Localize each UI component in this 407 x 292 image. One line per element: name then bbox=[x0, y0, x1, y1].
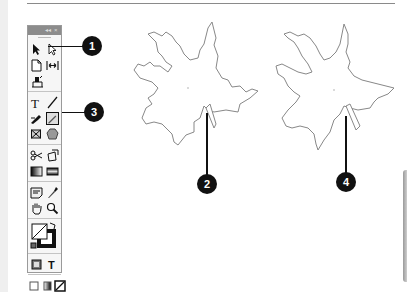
page-margin-strip bbox=[0, 0, 8, 292]
color-swatch-icon bbox=[28, 279, 41, 292]
free-transform-icon bbox=[46, 149, 59, 162]
formatting-affects-text-button[interactable]: T bbox=[46, 258, 59, 271]
tools-panel-titlebar[interactable]: ◂◂ × bbox=[28, 26, 61, 35]
gradient-swatch-icon bbox=[30, 165, 43, 178]
panel-grip[interactable] bbox=[28, 35, 61, 41]
eyedropper-tool[interactable] bbox=[46, 186, 59, 199]
note-tool[interactable] bbox=[30, 186, 43, 199]
apply-gradient-button[interactable] bbox=[41, 279, 54, 292]
maple-leaf-path-2 bbox=[270, 22, 402, 157]
page-icon bbox=[30, 59, 43, 72]
separator bbox=[28, 274, 61, 275]
selection-tool[interactable] bbox=[30, 43, 43, 56]
direct-selection-tool[interactable] bbox=[46, 43, 59, 56]
free-transform-tool[interactable] bbox=[46, 149, 59, 162]
svg-text:T: T bbox=[48, 259, 55, 271]
zoom-tool[interactable] bbox=[46, 202, 59, 215]
separator bbox=[28, 181, 61, 182]
content-collector-tool[interactable] bbox=[31, 75, 44, 88]
fill-stroke-icon bbox=[28, 221, 61, 251]
hand-tool[interactable] bbox=[30, 202, 43, 215]
page-edge-tab bbox=[403, 170, 407, 282]
separator bbox=[28, 91, 61, 92]
white-arrow-icon bbox=[46, 43, 59, 56]
apply-none-button[interactable] bbox=[54, 279, 67, 292]
apply-color-button[interactable] bbox=[28, 279, 41, 292]
gradient-feather-icon bbox=[46, 165, 59, 178]
callout-2-leader bbox=[206, 113, 208, 175]
content-collector-icon bbox=[31, 75, 44, 88]
magnifier-icon bbox=[46, 202, 59, 215]
line-icon bbox=[46, 96, 59, 109]
top-rule bbox=[27, 3, 395, 4]
type-tool[interactable]: T bbox=[30, 96, 43, 109]
gap-tool[interactable] bbox=[46, 59, 59, 72]
callout-2: 2 bbox=[197, 174, 217, 194]
polygon-tool[interactable] bbox=[46, 128, 59, 141]
callout-3: 3 bbox=[84, 102, 104, 122]
gradient-feather-tool[interactable] bbox=[46, 165, 59, 178]
separator bbox=[28, 144, 61, 145]
rectangle-frame-icon bbox=[30, 128, 43, 141]
pencil-tool[interactable] bbox=[46, 112, 59, 125]
eyedropper-icon bbox=[46, 186, 59, 199]
gradient-swatch-tool[interactable] bbox=[30, 165, 43, 178]
text-t-icon: T bbox=[46, 258, 59, 271]
gap-icon bbox=[46, 59, 59, 72]
scissors-tool[interactable] bbox=[30, 149, 43, 162]
formatting-affects-container-button[interactable] bbox=[30, 258, 43, 271]
pen-icon bbox=[30, 112, 43, 125]
svg-text:T: T bbox=[31, 96, 39, 109]
separator bbox=[28, 218, 61, 219]
fill-stroke-control[interactable] bbox=[28, 221, 61, 251]
line-tool[interactable] bbox=[46, 96, 59, 109]
page-tool[interactable] bbox=[30, 59, 43, 72]
black-arrow-icon bbox=[30, 43, 43, 56]
callout-1: 1 bbox=[82, 36, 102, 56]
hand-icon bbox=[30, 202, 43, 215]
pencil-icon bbox=[47, 112, 58, 125]
gradient-icon bbox=[41, 279, 54, 292]
close-icon[interactable]: × bbox=[54, 26, 58, 35]
separator bbox=[28, 253, 61, 254]
callout-4-leader bbox=[345, 116, 347, 174]
scissors-icon bbox=[30, 149, 43, 162]
maple-leaf-path-1 bbox=[128, 20, 260, 155]
none-swatch-icon bbox=[54, 279, 67, 292]
tools-panel: ◂◂ × T bbox=[27, 25, 62, 273]
note-icon bbox=[30, 186, 43, 199]
collapse-icon[interactable]: ◂◂ bbox=[45, 26, 51, 35]
callout-4: 4 bbox=[336, 172, 356, 192]
container-icon bbox=[30, 258, 43, 271]
polygon-icon bbox=[46, 128, 59, 141]
rectangle-frame-tool[interactable] bbox=[30, 128, 43, 141]
pen-tool[interactable] bbox=[30, 112, 43, 125]
type-icon: T bbox=[30, 96, 43, 109]
